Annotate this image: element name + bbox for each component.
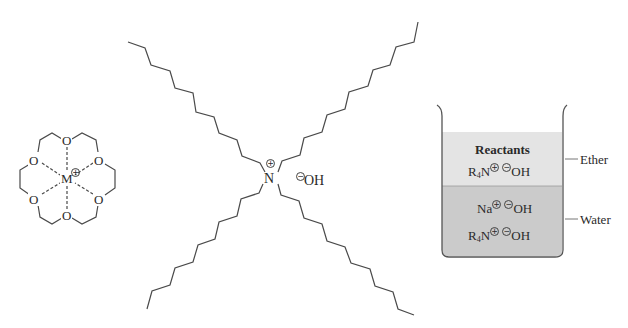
ether-species-r4n-oh: R4N+ −OH — [468, 163, 530, 180]
oxygen-atom-label: O — [28, 193, 39, 206]
oxygen-atom-label: O — [28, 154, 39, 167]
alkyl-chain-top-left — [128, 42, 265, 172]
phase-transfer-figure: O O O O O O M + + N − OH Reactants R4N+ … — [0, 0, 628, 328]
water-species-na-oh: Na+ −OH — [477, 200, 532, 215]
water-layer-label: Water — [580, 213, 611, 226]
positive-charge-icon: + — [490, 227, 499, 236]
alkyl-chain-bottom-left — [147, 184, 263, 309]
positive-charge-icon: + — [266, 159, 275, 168]
hydroxide-label: OH — [304, 174, 324, 188]
positive-charge-icon: + — [490, 163, 499, 172]
oxygen-atom-label: O — [93, 154, 104, 167]
reactants-title: Reactants — [475, 143, 530, 156]
water-species-r4n-oh: R4N+ −OH — [468, 227, 530, 244]
oxygen-atom-label: O — [93, 193, 104, 206]
oxygen-atom-label: O — [61, 209, 72, 222]
oxygen-atom-label: O — [61, 134, 72, 147]
negative-charge-icon: − — [502, 163, 511, 172]
negative-charge-icon: − — [502, 227, 511, 236]
positive-charge-icon: + — [71, 168, 80, 177]
positive-charge-icon: + — [492, 200, 501, 209]
alkyl-chain-bottom-right — [278, 184, 414, 315]
nitrogen-atom-label: N — [264, 172, 274, 186]
ether-layer-label: Ether — [580, 153, 608, 166]
alkyl-chain-top-right — [278, 22, 418, 172]
